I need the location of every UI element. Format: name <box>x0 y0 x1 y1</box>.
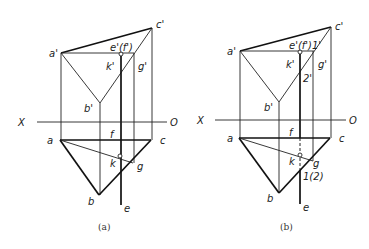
label-k-prime: k' <box>286 59 295 70</box>
label-1-2: 1(2) <box>303 171 324 182</box>
label-ef1-prime: e'(f')1' <box>289 40 321 51</box>
edge-a-b-front <box>61 53 100 103</box>
label-b: b <box>88 196 94 207</box>
label-a: a <box>227 133 233 144</box>
figure-b: a' c' e'(f')1' k' g' 2' b' X O a c f k g… <box>196 21 357 232</box>
label-e: e <box>124 203 130 214</box>
label-o-axis: O <box>349 115 357 126</box>
label-c: c <box>160 135 166 146</box>
label-f: f <box>289 127 294 138</box>
caption-b: (b) <box>280 222 293 232</box>
label-k: k <box>289 156 296 167</box>
label-c: c <box>339 133 345 144</box>
label-ef-prime: e'(f') <box>110 42 133 53</box>
label-g: g <box>313 158 319 169</box>
edge-a-c-front <box>61 28 152 53</box>
label-b: b <box>267 193 273 204</box>
label-2-prime: 2' <box>303 73 312 84</box>
label-k-prime: k' <box>106 61 115 72</box>
point-k <box>118 154 122 158</box>
label-a-prime: a' <box>49 48 58 59</box>
edge-a-b-top <box>60 140 99 195</box>
label-k: k <box>110 158 117 169</box>
label-c-prime: c' <box>335 21 343 32</box>
label-g-prime: g' <box>138 61 147 72</box>
caption-a: (a) <box>98 222 110 232</box>
edge-b-c-top <box>279 138 330 193</box>
label-a-prime: a' <box>227 46 236 57</box>
edge-a-b-top <box>239 138 279 193</box>
label-a: a <box>47 135 53 146</box>
edge-a-g-top <box>60 140 133 163</box>
label-b-prime: b' <box>264 102 273 113</box>
label-g-prime: g' <box>318 59 327 70</box>
figure-a: a' c' e'(f') k' g' b' X O a c f k g b e … <box>17 19 178 232</box>
label-x-axis: X <box>17 117 26 128</box>
label-e: e <box>303 202 309 213</box>
edge-a-g-top <box>239 138 313 161</box>
label-f: f <box>110 129 115 140</box>
projection-drawing: a' c' e'(f') k' g' b' X O a c f k g b e … <box>0 0 369 249</box>
label-o-axis: O <box>170 117 178 128</box>
label-b-prime: b' <box>84 103 93 114</box>
label-c-prime: c' <box>156 19 164 30</box>
label-g: g <box>137 161 143 172</box>
point-k <box>298 153 302 157</box>
label-x-axis: X <box>196 115 205 126</box>
edge-a-b-front <box>240 51 279 102</box>
